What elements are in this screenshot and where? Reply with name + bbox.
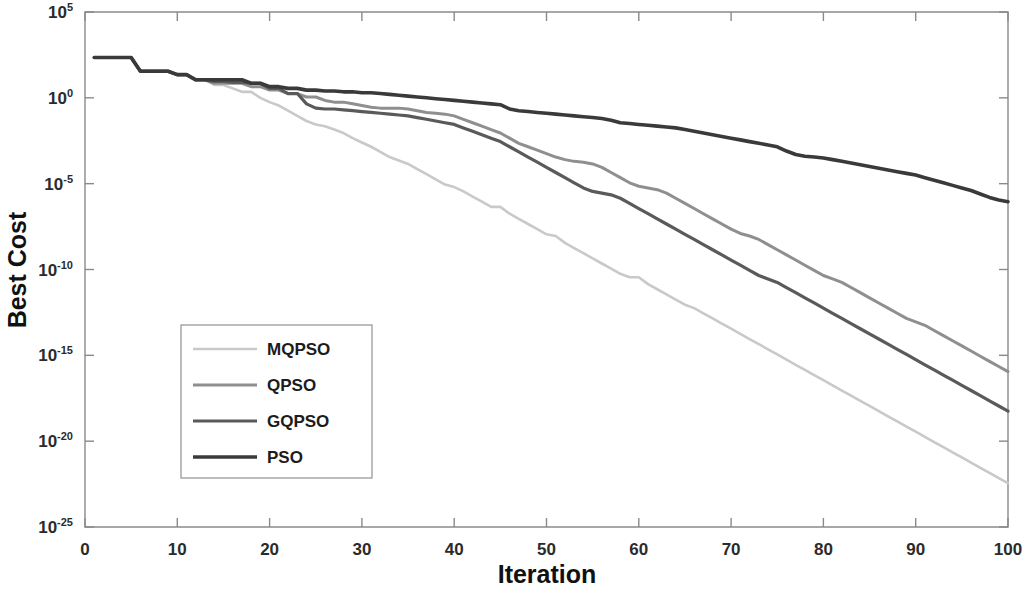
x-tick-label: 50 — [537, 540, 556, 559]
x-axis-title: Iteration — [498, 560, 597, 588]
x-tick-label: 0 — [80, 540, 89, 559]
figure-background — [0, 0, 1032, 592]
x-tick-label: 70 — [722, 540, 741, 559]
x-tick-label: 20 — [260, 540, 279, 559]
legend-label-pso: PSO — [267, 448, 303, 467]
x-tick-label: 90 — [906, 540, 925, 559]
x-tick-label: 10 — [168, 540, 187, 559]
chart-legend: MQPSOQPSOGQPSOPSO — [181, 325, 372, 478]
chart-svg: 0102030405060708090100 10510010-510-1010… — [0, 0, 1032, 592]
legend-label-gqpso: GQPSO — [267, 412, 329, 431]
y-axis-title: Best Cost — [3, 211, 31, 328]
legend-label-mqpso: MQPSO — [267, 340, 330, 359]
legend-label-qpso: QPSO — [267, 376, 316, 395]
x-tick-label: 30 — [352, 540, 371, 559]
x-tick-label: 40 — [445, 540, 464, 559]
chart-figure: 0102030405060708090100 10510010-510-1010… — [0, 0, 1032, 592]
x-tick-label: 100 — [994, 540, 1022, 559]
x-tick-label: 60 — [629, 540, 648, 559]
x-tick-label: 80 — [814, 540, 833, 559]
